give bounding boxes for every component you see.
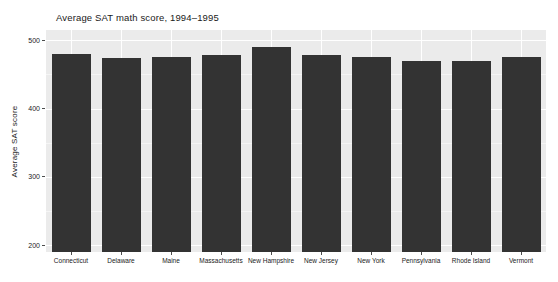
x-tick-mark [271,252,272,255]
bar[interactable] [352,57,391,252]
y-tick-label: 500 [28,37,40,44]
x-tick-mark [521,252,522,255]
x-axis-tick: Connecticut [46,252,96,264]
y-tick-label: 400 [28,105,40,112]
x-axis-tick: Pennsylvania [396,252,446,264]
x-tick-label: Maine [146,257,196,264]
y-axis-tick: 300 [0,172,46,182]
bar[interactable] [102,58,141,252]
x-tick-label: Rhode Island [446,257,496,264]
x-tick-mark [421,252,422,255]
x-tick-label: Pennsylvania [396,257,446,264]
y-axis-ticks: 200300400500 [0,30,46,252]
x-tick-label: Delaware [96,257,146,264]
bar[interactable] [52,54,91,252]
x-axis-tick: Vermont [496,252,546,264]
y-tick-mark [42,245,45,246]
bar-chart: Average SAT math score, 1994–1995 Averag… [0,0,558,282]
bar[interactable] [152,57,191,252]
bars-layer [46,30,546,252]
x-axis-tick: Rhode Island [446,252,496,264]
x-axis-tick: New Hampshire [246,252,296,264]
plot-area [46,30,546,252]
x-tick-mark [71,252,72,255]
y-tick-label: 200 [28,242,40,249]
bar[interactable] [252,47,291,252]
bar[interactable] [502,57,541,252]
y-tick-mark [42,40,45,41]
bar[interactable] [202,55,241,252]
x-tick-label: Vermont [496,257,546,264]
x-tick-mark [321,252,322,255]
bar[interactable] [302,55,341,252]
y-tick-label: 300 [28,173,40,180]
x-tick-mark [171,252,172,255]
y-tick-mark [42,108,45,109]
y-axis-tick: 400 [0,104,46,114]
x-tick-mark [471,252,472,255]
chart-title: Average SAT math score, 1994–1995 [56,12,219,23]
x-axis-ticks: ConnecticutDelawareMaineMassachusettsNew… [46,252,546,278]
y-axis-tick: 200 [0,240,46,250]
x-axis-tick: New Jersey [296,252,346,264]
x-tick-label: New York [346,257,396,264]
x-axis-tick: Maine [146,252,196,264]
x-axis-tick: Massachusetts [196,252,246,264]
x-tick-label: New Hampshire [246,257,296,264]
x-tick-mark [371,252,372,255]
bar[interactable] [402,61,441,252]
x-tick-label: Connecticut [46,257,96,264]
x-tick-mark [221,252,222,255]
bar[interactable] [452,61,491,252]
x-axis-tick: Delaware [96,252,146,264]
y-tick-mark [42,176,45,177]
x-tick-mark [121,252,122,255]
x-tick-label: Massachusetts [196,257,246,264]
x-tick-label: New Jersey [296,257,346,264]
y-axis-tick: 500 [0,35,46,45]
x-axis-tick: New York [346,252,396,264]
